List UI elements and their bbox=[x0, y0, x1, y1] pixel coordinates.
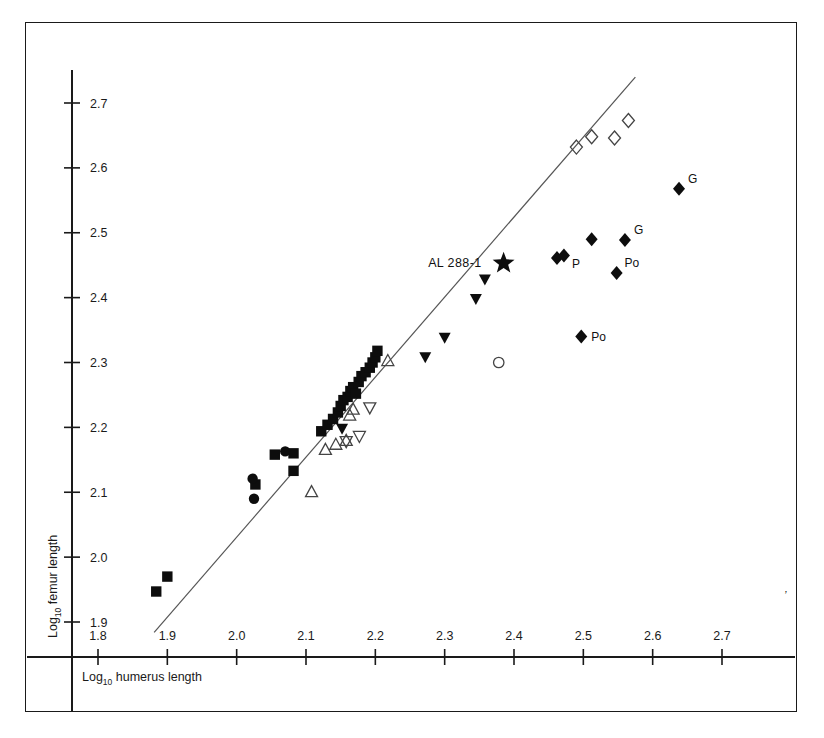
data-point-filled-circle bbox=[247, 473, 257, 483]
data-point-filled-diamond bbox=[673, 182, 685, 196]
point-annotation: G bbox=[688, 172, 697, 186]
data-point-filled-diamond bbox=[586, 232, 598, 246]
point-annotation: P bbox=[572, 257, 580, 271]
x-tick-label: 2.7 bbox=[713, 629, 730, 643]
x-tick-label: 2.2 bbox=[367, 629, 384, 643]
y-tick-label: 2.4 bbox=[90, 291, 107, 305]
y-tick-label: 2.7 bbox=[90, 97, 107, 111]
data-point-open-triangle-up bbox=[382, 355, 394, 366]
point-annotation: AL 288-1 bbox=[428, 256, 481, 270]
y-tick-label: 2.3 bbox=[90, 356, 107, 370]
data-point-open-diamond bbox=[609, 131, 621, 145]
y-tick-label: 2.2 bbox=[90, 421, 107, 435]
data-point-open-triangle-up bbox=[306, 486, 318, 497]
data-point-filled-square bbox=[162, 571, 172, 581]
x-axis-title: Log10 humerus length bbox=[82, 670, 202, 687]
x-tick-label: 1.9 bbox=[159, 629, 176, 643]
data-point-filled-square bbox=[151, 586, 161, 596]
x-tick-label: 2.0 bbox=[228, 629, 245, 643]
data-point-open-triangle-down bbox=[364, 403, 376, 414]
data-point-open-circle bbox=[494, 357, 504, 367]
x-tick-label: 2.1 bbox=[297, 629, 314, 643]
scatter-plot: 1.92.02.12.22.32.42.52.62.71.81.92.02.12… bbox=[0, 0, 824, 738]
data-point-open-triangle-down bbox=[353, 431, 365, 442]
corner-mark: ’ bbox=[784, 585, 786, 603]
data-point-star-specimen bbox=[493, 252, 515, 273]
x-tick-label: 2.5 bbox=[575, 629, 592, 643]
x-tick-label: 2.3 bbox=[436, 629, 453, 643]
y-tick-label: 1.9 bbox=[90, 616, 107, 630]
figure-container: 1.92.02.12.22.32.42.52.62.71.81.92.02.12… bbox=[0, 0, 824, 738]
data-point-filled-triangle-down bbox=[479, 274, 491, 285]
y-tick-label: 2.1 bbox=[90, 486, 107, 500]
data-point-filled-triangle-down bbox=[439, 333, 451, 344]
data-point-filled-diamond bbox=[575, 330, 587, 344]
y-tick-label: 2.5 bbox=[90, 226, 107, 240]
data-point-filled-circle bbox=[249, 494, 259, 504]
data-point-filled-triangle-down bbox=[470, 294, 482, 305]
point-annotation: Po bbox=[591, 330, 606, 344]
y-tick-label: 2.0 bbox=[90, 551, 107, 565]
regression-line bbox=[154, 77, 635, 632]
data-point-filled-square bbox=[372, 346, 382, 356]
data-point-filled-square bbox=[288, 466, 298, 476]
data-point-open-diamond bbox=[570, 140, 582, 154]
y-tick-label: 2.6 bbox=[90, 161, 107, 175]
y-axis-title: Log10 femur length bbox=[46, 535, 63, 638]
x-tick-label: 1.8 bbox=[89, 629, 106, 643]
data-point-open-triangle-up bbox=[330, 438, 342, 449]
x-tick-label: 2.6 bbox=[644, 629, 661, 643]
data-point-filled-triangle-down bbox=[419, 352, 431, 363]
x-tick-label: 2.4 bbox=[505, 629, 522, 643]
point-annotation: Po bbox=[625, 256, 640, 270]
data-point-filled-diamond bbox=[619, 233, 631, 247]
point-annotation: G bbox=[634, 223, 643, 237]
data-point-filled-square bbox=[270, 449, 280, 459]
data-point-filled-triangle-down bbox=[336, 424, 348, 435]
data-point-filled-circle bbox=[280, 446, 290, 456]
data-point-open-triangle-up bbox=[347, 403, 359, 414]
data-point-filled-square bbox=[351, 388, 361, 398]
data-point-filled-diamond bbox=[611, 266, 623, 280]
data-point-open-diamond bbox=[622, 114, 634, 128]
